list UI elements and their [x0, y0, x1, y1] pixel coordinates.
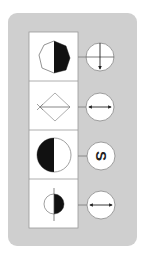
puzzle-diagram: S — [0, 0, 147, 259]
circle-left-half-black-icon — [37, 138, 71, 172]
letter-s-icon: S — [87, 142, 115, 170]
double-arrow-icon — [87, 191, 115, 219]
double-arrow-icon — [86, 93, 114, 121]
arrow-down-crosshair-icon — [86, 43, 114, 71]
heptagon-half-black-icon — [39, 41, 70, 73]
svg-text:S: S — [93, 151, 110, 161]
